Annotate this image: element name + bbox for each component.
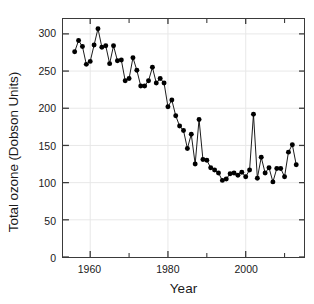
x-axis-title: Year: [62, 281, 305, 296]
y-axis-tick-labels: 050100150200250300: [24, 18, 56, 258]
data-point: [197, 117, 202, 122]
data-point: [84, 62, 89, 67]
data-point: [150, 65, 155, 70]
y-tick-label: 50: [26, 215, 56, 227]
data-point: [185, 146, 190, 151]
data-point: [290, 142, 295, 147]
data-point: [270, 179, 275, 184]
data-point: [88, 59, 93, 64]
data-series-layer: [63, 19, 304, 257]
data-point: [119, 57, 124, 62]
x-tick-label: 1960: [67, 263, 111, 275]
data-point: [243, 174, 248, 179]
data-point: [158, 76, 163, 81]
data-point: [263, 170, 268, 175]
data-point: [255, 176, 260, 181]
x-axis-tick-labels: 196019802000: [62, 263, 305, 279]
plot-area: [62, 18, 305, 258]
data-point: [294, 162, 299, 167]
ozone-chart-figure: Total ozone (Dobson Units) 0501001502002…: [0, 0, 314, 304]
data-point: [204, 158, 209, 163]
data-point: [127, 76, 132, 81]
y-tick-label: 0: [26, 252, 56, 264]
data-point: [92, 43, 97, 48]
y-axis-title: Total ozone (Dobson Units): [0, 0, 26, 304]
data-point: [251, 112, 256, 117]
data-point: [162, 80, 167, 85]
data-point: [286, 150, 291, 155]
data-point: [103, 43, 108, 48]
data-point: [72, 49, 77, 54]
data-point: [181, 128, 186, 133]
data-point: [165, 104, 170, 109]
data-point: [267, 165, 272, 170]
data-point: [107, 61, 112, 66]
data-point: [154, 80, 159, 85]
y-tick-label: 200: [26, 102, 56, 114]
y-tick-label: 150: [26, 140, 56, 152]
data-point: [177, 124, 182, 129]
data-point: [189, 132, 194, 137]
data-point: [282, 174, 287, 179]
data-point: [96, 26, 101, 31]
x-tick-label: 1980: [146, 263, 190, 275]
data-point: [224, 176, 229, 181]
data-point: [142, 83, 147, 88]
data-point: [76, 38, 81, 43]
data-point: [247, 168, 252, 173]
data-point: [235, 173, 240, 178]
data-point: [173, 113, 178, 118]
data-point: [134, 68, 139, 73]
y-tick-label: 300: [26, 27, 56, 39]
data-point: [278, 166, 283, 171]
data-point: [259, 155, 264, 160]
x-tick-label: 2000: [224, 263, 268, 275]
data-point: [111, 43, 116, 48]
data-point: [169, 98, 174, 103]
data-point: [80, 44, 85, 49]
data-point: [193, 162, 198, 167]
y-tick-label: 100: [26, 177, 56, 189]
data-point: [130, 55, 135, 60]
y-tick-label: 250: [26, 65, 56, 77]
data-point: [216, 170, 221, 175]
data-point: [146, 78, 151, 83]
data-point: [212, 168, 217, 173]
data-point: [239, 170, 244, 175]
